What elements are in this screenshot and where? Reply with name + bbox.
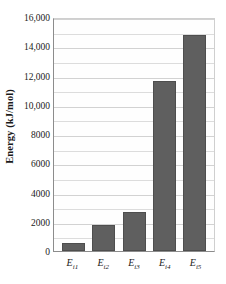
bar-slot [180, 19, 210, 251]
x-tick-subscript: i4 [165, 263, 170, 271]
x-tick-subscript: i1 [73, 263, 78, 271]
bar-Ei5 [183, 35, 206, 251]
x-tick-subscript: i3 [134, 263, 139, 271]
y-tick-label: 14,000 [24, 42, 50, 52]
bar-Ei4 [153, 81, 176, 251]
y-tick-label: 4000 [31, 189, 50, 199]
y-tick-label: 6000 [31, 159, 50, 169]
y-tick-label: 10,000 [24, 101, 50, 111]
bar-slot [88, 19, 118, 251]
bar-slot [58, 19, 88, 251]
y-axis-tick-labels: 0200040006000800010,00012,00014,00016,00… [14, 18, 50, 252]
bar-Ei3 [123, 212, 146, 251]
x-tick-subscript: i5 [196, 263, 201, 271]
plot-area [53, 18, 215, 252]
x-tick-label-Ei5: Ei5 [180, 254, 211, 271]
y-axis-title: Energy (kJ/mol) [4, 89, 15, 164]
y-tick-label: 12,000 [24, 72, 50, 82]
bar-slot [119, 19, 149, 251]
x-tick-label-Ei4: Ei4 [149, 254, 180, 271]
bar-slot [149, 19, 179, 251]
x-tick-label-Ei3: Ei3 [119, 254, 150, 271]
bar-chart-figure: Energy (kJ/mol) 0200040006000800010,0001… [0, 0, 226, 284]
y-tick-label: 16,000 [24, 13, 50, 23]
y-tick-label: 8000 [31, 130, 50, 140]
x-tick-label-Ei1: Ei1 [57, 254, 88, 271]
bar-Ei2 [92, 225, 115, 251]
bar-Ei1 [62, 243, 85, 251]
y-tick-label: 2000 [31, 218, 50, 228]
x-axis-tick-labels: Ei1Ei2Ei3Ei4Ei5 [53, 254, 215, 278]
y-tick-label: 0 [45, 247, 50, 257]
x-tick-subscript: i2 [104, 263, 109, 271]
x-tick-label-Ei2: Ei2 [88, 254, 119, 271]
bar-series [54, 19, 214, 251]
